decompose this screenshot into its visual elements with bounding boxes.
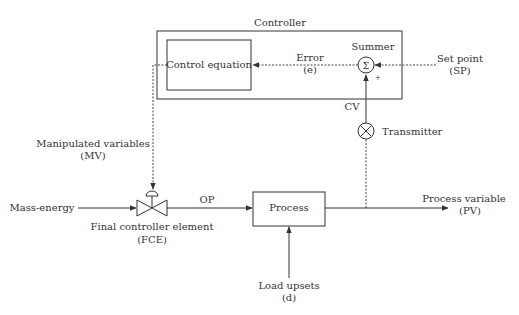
fce-label-line1: Final controller element — [91, 221, 214, 232]
mass-energy-label: Mass-energy — [10, 202, 75, 213]
mv-label-line1: Manipulated variables — [36, 138, 150, 149]
load-upsets-label-line1: Load upsets — [258, 280, 319, 291]
summer-plus-sign: + — [375, 74, 381, 82]
valve-icon — [137, 191, 167, 216]
control-equation-block: Control equation — [166, 40, 252, 90]
error-label-line1: Error — [296, 52, 324, 63]
op-label: OP — [200, 194, 215, 205]
controller-label: Controller — [254, 17, 306, 28]
fce-label-line2: (FCE) — [137, 234, 167, 245]
sigma-icon: Σ — [363, 61, 369, 71]
pv-label-line1: Process variable — [422, 193, 506, 204]
set-point-label-line1: Set point — [437, 53, 483, 64]
cv-label: CV — [345, 101, 361, 112]
error-label-line2: (e) — [303, 64, 317, 75]
process-block: Process — [253, 192, 325, 226]
control-equation-label: Control equation — [166, 59, 252, 70]
load-upsets-label-line2: (d) — [282, 292, 296, 303]
transmitter-block: Transmitter — [358, 123, 443, 139]
feedback-control-loop-diagram: Controller Control equation Σ Summer + S… — [0, 0, 519, 315]
transmitter-label: Transmitter — [382, 126, 443, 137]
process-label: Process — [269, 202, 308, 213]
summer-label: Summer — [352, 41, 395, 52]
set-point-label-line2: (SP) — [449, 65, 470, 76]
pv-label-line2: (PV) — [459, 205, 481, 216]
mv-label-line2: (MV) — [80, 150, 105, 161]
